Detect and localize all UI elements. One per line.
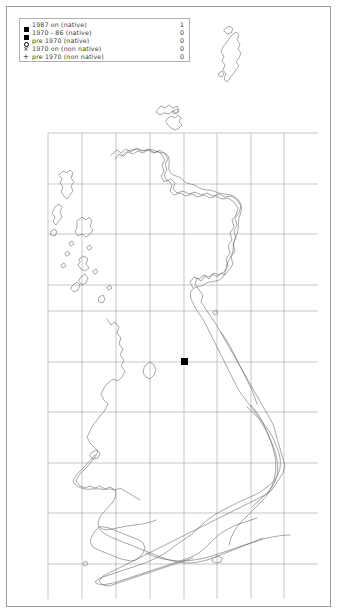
legend-row: + pre 1970 (non native) 0: [23, 53, 186, 61]
legend-row: 1970 - 86 (native) 0: [23, 29, 186, 37]
small-isle-6: [61, 263, 66, 268]
small-isle-3: [87, 245, 92, 250]
record-marker-1987-on-native: [181, 358, 188, 365]
shetland-island-north: [224, 26, 233, 34]
record-markers: [181, 358, 188, 365]
scotland-outline: [115, 150, 238, 288]
shetland-island-small: [219, 71, 224, 77]
legend-count: 0: [166, 37, 186, 45]
legend-row: 1987 on (native) 1: [23, 21, 186, 29]
outer-hebrides-uist: [52, 204, 62, 225]
legend-count: 0: [166, 29, 186, 37]
legend-count: 1: [166, 21, 186, 29]
isles-of-scilly: [83, 561, 88, 566]
map-canvas: [7, 7, 330, 606]
scotland-north-coast: [99, 148, 285, 586]
small-isle-2: [65, 251, 70, 256]
coastlines: [73, 105, 290, 586]
plus-icon: +: [23, 53, 32, 61]
england-south-coast: [146, 535, 290, 561]
legend-label: pre 1970 (native): [32, 37, 166, 45]
isle-of-mull: [78, 256, 89, 271]
cornwall-tip: [90, 527, 145, 561]
shetland-islands: [221, 32, 241, 82]
small-isle-4: [93, 269, 98, 274]
wales-coastline: [73, 455, 156, 530]
outer-hebrides-barra: [51, 229, 57, 236]
isle-of-islay: [71, 282, 80, 292]
isle-of-arran: [99, 295, 105, 303]
legend-count: 0: [166, 45, 186, 53]
england-east-coast: [229, 405, 276, 545]
anglesey: [90, 450, 100, 459]
legend-row: pre 1970 (native) 0: [23, 37, 186, 45]
legend-count: 0: [166, 53, 186, 61]
small-isle-1: [69, 241, 74, 246]
legend-label: 1987 on (native): [32, 21, 166, 29]
distribution-map-root: 1987 on (native) 1 1970 - 86 (native) 0 …: [0, 0, 338, 616]
grid-lines: [48, 133, 318, 599]
map-legend: 1987 on (native) 1 1970 - 86 (native) 0 …: [19, 18, 190, 62]
small-isle-5: [107, 285, 112, 290]
legend-label: 1970 - 86 (native): [32, 29, 166, 37]
england-wales-west-coast: [76, 319, 140, 500]
great-britain-coastline: [157, 105, 179, 115]
outer-hebrides-lewis-harris: [59, 170, 74, 199]
legend-label: 1970 on (non native): [32, 45, 166, 53]
isle-of-jura: [79, 274, 88, 285]
orkney-islands: [166, 115, 182, 130]
gb-mainland-outline: [95, 149, 280, 584]
legend-row: × 1970 on (non native) 0: [23, 45, 186, 53]
isle-of-man: [143, 362, 156, 379]
legend-label: pre 1970 (non native): [32, 53, 166, 61]
